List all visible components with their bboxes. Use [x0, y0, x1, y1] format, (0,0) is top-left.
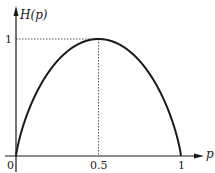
y-axis-label: H(p) — [20, 9, 48, 21]
x-axis-arrow-icon — [194, 154, 204, 159]
y-tick-1: 1 — [5, 34, 12, 45]
x-tick-1: 1 — [178, 160, 185, 171]
entropy-chart — [0, 0, 215, 173]
axes — [5, 6, 204, 172]
guide-lines — [16, 39, 99, 156]
y-axis-arrow-icon — [14, 6, 19, 16]
x-tick-0-5: 0.5 — [90, 160, 108, 171]
x-axis-label: p — [206, 148, 214, 160]
x-tick-0: 0 — [7, 160, 14, 171]
